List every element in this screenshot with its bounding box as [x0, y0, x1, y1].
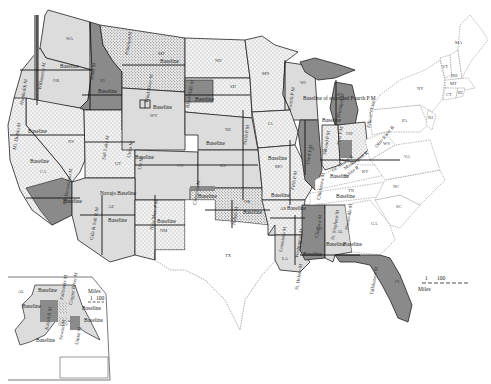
baseline-label-wind-river: Baseline [153, 104, 172, 110]
baseline-label-st-stephens: Baseline [343, 241, 362, 247]
label-nv: NV [68, 139, 75, 144]
label-sd: SD [230, 84, 237, 89]
label-wa: WA [66, 36, 74, 41]
inset-scale-end: 100 [96, 295, 105, 301]
label-wy: WY [150, 113, 158, 118]
label-nh: NH [451, 73, 458, 78]
baseline-label-gila: Baseline [108, 217, 127, 223]
label-nd: ND [215, 58, 222, 63]
label-fl: FL [395, 279, 401, 284]
baseline-label-navajo: Navajo Baseline [100, 190, 137, 196]
label-mn: MN [262, 71, 270, 76]
west-region [8, 10, 198, 262]
baseline-label-boise: Baseline [98, 88, 117, 94]
label-ks: KS [220, 163, 226, 168]
state-ks [198, 150, 262, 188]
label-ut: UT [115, 161, 121, 166]
baseline-label-sixth: Baseline [206, 140, 225, 146]
label-me: MA [455, 40, 463, 45]
label-ny: NY [417, 86, 424, 91]
label-va: VA [404, 154, 411, 159]
baseline-label-third: Baseline [268, 155, 287, 161]
scale-start: 1 [425, 275, 428, 281]
inset-baseline-1: Baseline [38, 287, 57, 293]
scale-unit: Miles [418, 286, 431, 292]
label-wv: WV [383, 141, 391, 146]
inset-baseline-2: Baseline [22, 303, 41, 309]
inset-baseline-4: Baseline [84, 317, 103, 323]
label-nc: NC [393, 184, 399, 189]
label-ct: CT [446, 92, 452, 97]
label-ar: AR [280, 206, 286, 211]
label-ma: MT [450, 81, 457, 86]
baseline-label-cimarron: Baseline [198, 193, 217, 199]
inset-label: AL [18, 289, 24, 294]
label-az: AZ [108, 204, 114, 209]
label-pa: PA [402, 118, 408, 123]
state-nj [426, 110, 436, 130]
meridian-label-tallahassee: Tallahassee M [369, 266, 379, 296]
label-nm: NM [160, 228, 167, 233]
label-ne: NE [225, 127, 231, 132]
label-co: CO [177, 163, 184, 168]
inset-baseline-3: Baseline [82, 305, 101, 311]
label-nj: NJ [428, 115, 433, 120]
baseline-label-ar: Baseline [271, 192, 290, 198]
label-al: AL [337, 229, 343, 234]
baseline-label-mt: Baseline [160, 58, 179, 64]
label-mo: MO [275, 164, 283, 169]
inset-scale-unit: Miles [88, 288, 101, 294]
label-ky: KY [362, 169, 369, 174]
label-id: ID [100, 78, 105, 83]
label-mt: MT [158, 51, 165, 56]
baseline-label-indian: Baseline [243, 209, 262, 215]
label-ri: RI [458, 90, 463, 95]
label-ia: IA [268, 121, 273, 126]
label-ga: GA [371, 221, 378, 226]
baseline-label-fifth: Baseline [287, 205, 306, 211]
baseline-label-humboldt: Baseline [28, 128, 47, 134]
state-ia [252, 110, 298, 148]
state-pa [370, 105, 428, 135]
state-wy [122, 88, 185, 150]
state-ny [370, 60, 445, 112]
baseline-label-willamette: Baseline [60, 63, 79, 69]
survey-map: WA OR ID MT ND SD MN WI MI WY NE IA NV C… [0, 0, 491, 384]
baseline-label-black-hills: Baseline [195, 96, 214, 102]
baseline-label-washington: Baseline [303, 251, 322, 257]
baseline-label-chickasaw: Baseline [336, 193, 355, 199]
label-ok: OK [244, 199, 251, 204]
scale-end: 100 [437, 275, 446, 281]
baseline-label-nm: Baseline [157, 218, 176, 224]
label-sc: SC [396, 204, 402, 209]
label-tx: TX [225, 253, 232, 258]
label-wi: WI [300, 80, 306, 85]
baseline-label-mt-diablo: Baseline [30, 158, 49, 164]
inset-scale-start: 1 [90, 295, 93, 301]
label-vt: VT [442, 64, 448, 69]
label-la: LA [282, 256, 289, 261]
inset-baseline-5: Baseline [36, 337, 55, 343]
alaska-inset: AL Baseline Baseline Baseline Baseline B… [8, 271, 110, 380]
scale-bar: 1 100 Miles [418, 275, 468, 292]
label-oh: OH [346, 131, 353, 136]
label-ca: CA [40, 169, 47, 174]
state-me [458, 15, 488, 78]
label-or: OR [53, 78, 59, 83]
